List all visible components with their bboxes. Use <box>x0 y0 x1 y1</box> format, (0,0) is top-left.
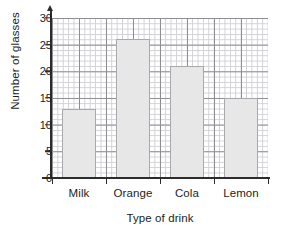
x-axis-tick-mark <box>160 177 161 184</box>
x-axis-category-label: Cola <box>160 187 214 199</box>
y-axis-tick-mark <box>45 124 52 125</box>
y-axis-tick-mark <box>45 44 52 45</box>
y-axis-tick-mark <box>45 71 52 72</box>
bar <box>116 39 149 178</box>
x-axis-category-label: Orange <box>106 187 160 199</box>
bar <box>170 66 203 178</box>
x-axis-tick-mark <box>52 177 53 184</box>
y-axis-tick-mark <box>45 151 52 152</box>
x-axis-tick-mark <box>268 177 269 184</box>
y-axis-tick-mark <box>45 97 52 98</box>
y-axis-tick-mark <box>45 17 52 18</box>
y-axis-ticks: 051015202530 <box>0 0 52 237</box>
bar <box>224 98 257 178</box>
x-axis-title: Type of drink <box>52 212 268 224</box>
y-axis-tick-mark <box>45 177 52 178</box>
x-axis-category-label: Lemon <box>214 187 268 199</box>
x-axis-category-label: Milk <box>52 187 106 199</box>
bar-chart-figure: Number of glasses 051015202530 MilkOrang… <box>0 0 281 237</box>
x-axis-line <box>42 177 270 179</box>
x-axis-tick-mark <box>106 177 107 184</box>
bar <box>62 109 95 178</box>
x-axis-tick-mark <box>214 177 215 184</box>
